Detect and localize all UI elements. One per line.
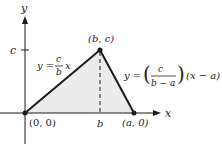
y-tick-label: c — [10, 44, 16, 57]
y-axis-arrow-icon — [22, 16, 28, 24]
x-axis-arrow-icon — [153, 110, 161, 116]
vertex-right — [132, 111, 137, 116]
right-eq-rparen: ) — [177, 62, 185, 86]
left-eq-numerator: c — [56, 54, 61, 64]
left-eq-rhs: x — [65, 60, 71, 71]
right-eq-lparen: ( — [143, 62, 151, 86]
right-eq-numerator: c — [158, 64, 163, 74]
y-axis-label: y — [20, 2, 28, 15]
right-point-label: (a, 0) — [122, 117, 149, 128]
right-eq-rhs: (x − a) — [186, 70, 220, 81]
triangle-diagram: x y c (b, c) (0, 0) b (a, 0) y = c b x y… — [0, 0, 222, 144]
vertex-origin — [23, 111, 28, 116]
x-tick-label: b — [97, 118, 103, 129]
x-axis-label: x — [165, 107, 172, 120]
right-eq-denominator: b − a — [151, 78, 175, 88]
left-line-equation: y = c b x — [36, 54, 71, 77]
right-eq-lhs: y = — [123, 70, 141, 81]
right-line-equation: y = ( c b − a ) (x − a) — [123, 62, 220, 88]
peak-label: (b, c) — [88, 33, 114, 44]
left-eq-lhs: y = — [36, 60, 54, 71]
vertex-peak — [98, 48, 103, 53]
origin-label: (0, 0) — [29, 117, 56, 128]
left-eq-denominator: b — [56, 67, 62, 77]
